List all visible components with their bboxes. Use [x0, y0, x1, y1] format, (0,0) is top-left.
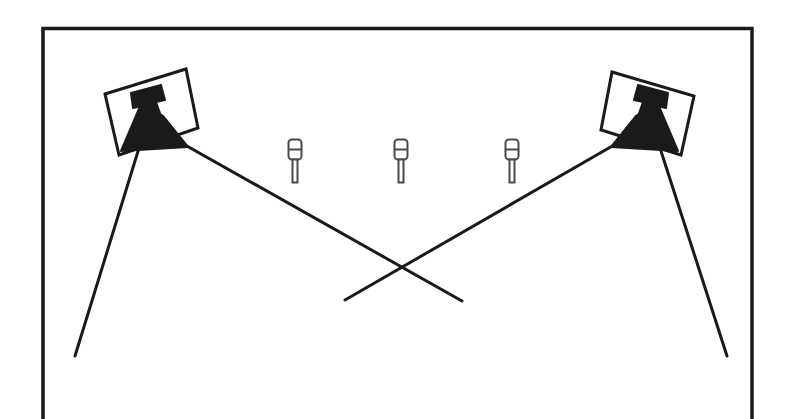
probe-3-stem [510, 160, 515, 183]
antenna-measurement-diagram [0, 0, 792, 419]
diagram-canvas [0, 0, 792, 419]
probe-2-stem [399, 160, 404, 183]
probe-1-stem [293, 160, 298, 183]
